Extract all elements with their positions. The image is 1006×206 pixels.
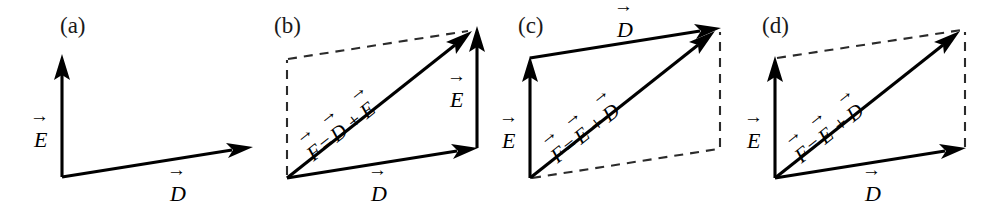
panel-d-caption: (d) bbox=[762, 13, 789, 38]
panel-a-label-e: → E bbox=[30, 105, 49, 152]
panel-a-vector-d-shaft bbox=[62, 150, 232, 177]
panel-a: (a) → E → D bbox=[30, 13, 253, 206]
panel-d-label-d-arrow: → bbox=[862, 159, 881, 180]
panel-c-label-e: → E bbox=[499, 106, 518, 153]
panel-c-label-e-arrow: → bbox=[499, 106, 518, 127]
panel-b-label-d-text: D bbox=[370, 181, 387, 206]
panel-c-label-f-expression: → F = → E + → D bbox=[533, 80, 628, 168]
panel-d-label-f-expression: → F = → E + → D bbox=[777, 80, 872, 168]
panel-d: (d) → F = → E + → D bbox=[744, 13, 966, 206]
panel-b-label-e: → E bbox=[447, 65, 466, 112]
panel-c: (c) → F = → E + → D bbox=[499, 0, 721, 178]
panel-d-label-e-text: E bbox=[746, 128, 761, 153]
panel-c-label-d-text: D bbox=[616, 17, 633, 42]
panel-b-label-f-expression: → F = → D + → E bbox=[289, 77, 385, 166]
panel-a-label-e-arrow: → bbox=[30, 105, 49, 126]
panel-c-label-d-arrow: → bbox=[614, 0, 633, 16]
panel-c-label-e-text: E bbox=[501, 128, 516, 153]
panel-d-label-d: → D bbox=[862, 159, 881, 206]
panel-a-label-e-text: E bbox=[33, 127, 48, 152]
panel-d-label-d-text: D bbox=[864, 181, 881, 206]
figure-canvas: (a) → E → D (b) bbox=[0, 0, 1006, 206]
panel-a-label-d: → D bbox=[167, 159, 186, 206]
panel-c-caption: (c) bbox=[518, 13, 544, 38]
panel-b: (b) → F = → D + → E bbox=[274, 13, 485, 206]
panel-b-label-e-text: E bbox=[449, 87, 464, 112]
panel-b-label-d: → D bbox=[368, 159, 387, 206]
panel-c-vector-d-shaft bbox=[530, 31, 700, 58]
vector-addition-figure: (a) → E → D (b) bbox=[0, 0, 1006, 206]
panel-d-label-e-arrow: → bbox=[744, 106, 763, 127]
panel-a-label-d-arrow: → bbox=[167, 159, 186, 180]
panel-d-label-e: → E bbox=[744, 106, 763, 153]
panel-b-caption: (b) bbox=[274, 13, 301, 38]
panel-a-caption: (a) bbox=[60, 13, 86, 38]
panel-b-label-d-arrow: → bbox=[368, 159, 387, 180]
panel-c-label-d: → D bbox=[614, 0, 633, 42]
panel-a-label-d-text: D bbox=[169, 181, 186, 206]
panel-b-label-e-arrow: → bbox=[447, 65, 466, 86]
